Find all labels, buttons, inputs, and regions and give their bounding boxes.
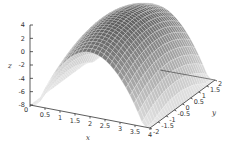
z-tick-label: 2 xyxy=(21,35,25,43)
x-tick-label: 2 xyxy=(88,120,92,128)
y-tick-label: 0 xyxy=(186,104,190,112)
x-tick-label: 2.5 xyxy=(100,122,110,130)
x-tick-label: 0.5 xyxy=(40,111,50,119)
tick-mark xyxy=(166,116,168,117)
y-tick-label: -2 xyxy=(153,128,159,136)
y-axis-label: y xyxy=(211,109,217,117)
y-tick-label: 2 xyxy=(218,80,222,88)
z-axis-label: z xyxy=(7,62,12,70)
y-tick-label: -1 xyxy=(169,116,175,124)
tick-mark xyxy=(191,98,193,99)
x-tick-label: 3 xyxy=(118,125,122,133)
x-tick-label: 1.5 xyxy=(70,117,80,125)
z-tick-label: -4 xyxy=(19,75,25,83)
x-tick-label: 4 xyxy=(148,131,152,139)
x-tick-label: 3.5 xyxy=(130,128,140,136)
z-tick-label: 0 xyxy=(21,48,25,56)
tick-mark xyxy=(215,80,217,81)
x-tick-label: 0 xyxy=(24,106,28,114)
tick-mark xyxy=(199,92,201,93)
z-tick-label: -6 xyxy=(19,88,25,96)
z-tick-label: -2 xyxy=(19,61,25,69)
tick-mark xyxy=(183,104,185,105)
z-tick-label: 4 xyxy=(21,21,25,29)
tick-mark xyxy=(174,110,176,111)
z-tick-labels: -8-6-4-2024 xyxy=(19,21,33,109)
y-tick-label: 1 xyxy=(202,92,206,100)
x-tick-label: 1 xyxy=(58,114,62,122)
x-axis-label: x xyxy=(86,134,90,142)
tick-mark xyxy=(158,122,160,123)
tick-mark xyxy=(207,86,209,87)
surface-plot: -8-6-4-2024 0.511.522.533.540 -2-1.5-1-0… xyxy=(0,0,231,148)
